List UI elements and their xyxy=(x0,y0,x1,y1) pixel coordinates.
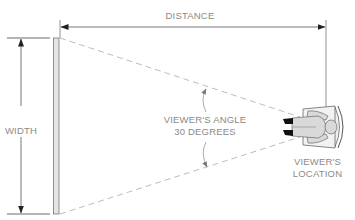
width-label: WIDTH xyxy=(1,125,41,137)
viewing-distance-diagram xyxy=(0,0,355,220)
distance-label: DISTANCE xyxy=(150,10,230,22)
viewer-angle-label-line1: VIEWER'S ANGLE xyxy=(150,114,260,126)
viewer-location-label-line1: VIEWER'S xyxy=(280,156,355,168)
screen-bar xyxy=(54,38,60,214)
distance-dimension xyxy=(60,20,326,108)
viewer-figure xyxy=(283,106,343,148)
viewer-angle-label-line2: 30 DEGREES xyxy=(150,126,260,138)
viewer-location-label-line2: LOCATION xyxy=(280,168,355,180)
